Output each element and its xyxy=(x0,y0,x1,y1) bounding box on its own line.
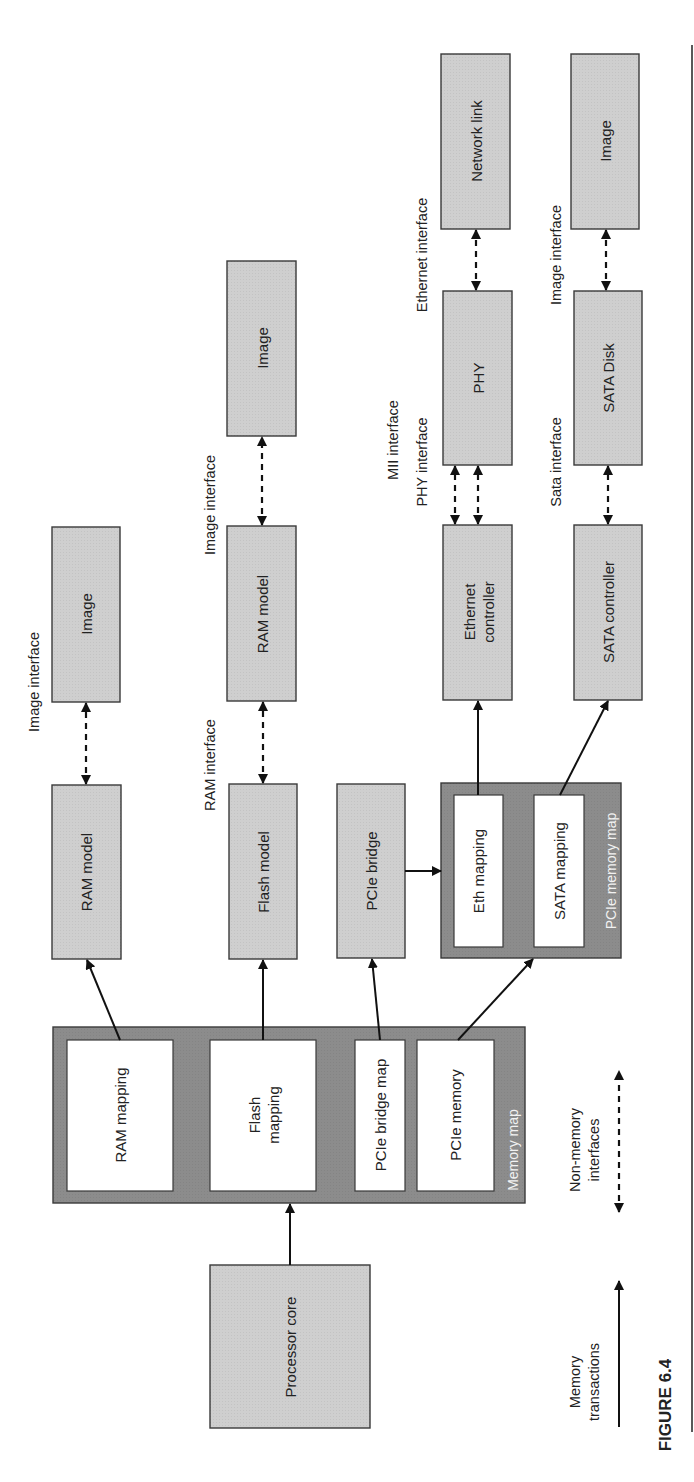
pcie-memory-map-title: PCIe memory map xyxy=(603,812,619,929)
ethernet-interface-label: Ethernet interface xyxy=(414,198,430,312)
flash-model-label: Flash model xyxy=(255,831,272,913)
system-diagram: Processor core Memory map RAM mapping Fl… xyxy=(0,0,694,1482)
ethernet-controller-label-2: controller xyxy=(480,581,497,643)
figure-label: FIGURE 6.4 xyxy=(656,1358,675,1451)
arrow-sata-mapping-to-sata-controller xyxy=(560,701,608,795)
flash-mapping-label-2: mapping xyxy=(265,1086,282,1144)
ethernet-controller-box-texture xyxy=(443,525,512,700)
eth-mapping-label: Eth mapping xyxy=(470,829,487,913)
image-1-label: Image xyxy=(78,593,95,635)
legend-nonmemory-label-2: interfaces xyxy=(586,1119,602,1182)
image-2-label: Image xyxy=(254,327,271,369)
phy-interface-label: PHY interface xyxy=(414,417,430,506)
ram-model-2-label: RAM model xyxy=(254,575,271,653)
image-interface-1-label: Image interface xyxy=(26,632,42,732)
image-3-label: Image xyxy=(597,120,614,162)
flash-mapping-box xyxy=(210,1040,316,1191)
ram-interface-label: RAM interface xyxy=(202,719,218,811)
sata-disk-label: SATA Disk xyxy=(600,343,617,413)
sata-controller-label: SATA controller xyxy=(600,561,617,663)
image-interface-3-label: Image interface xyxy=(548,205,564,305)
pcie-bridge-map-label: PCIe bridge map xyxy=(372,1059,389,1172)
ram-mapping-label: RAM mapping xyxy=(112,1067,129,1162)
sata-interface-label: Sata interface xyxy=(548,417,564,506)
ram-model-1-label: RAM model xyxy=(78,833,95,911)
image-interface-2-label: Image interface xyxy=(202,455,218,555)
mii-interface-label: MII interface xyxy=(385,400,401,480)
flash-mapping-label-1: Flash xyxy=(246,1097,263,1134)
sata-mapping-label: SATA mapping xyxy=(551,822,568,920)
legend-nonmemory-label-1: Non-memory xyxy=(567,1107,583,1192)
network-link-label: Network link xyxy=(468,100,485,182)
ethernet-controller-label-1: Ethernet xyxy=(461,583,478,641)
pcie-bridge-label: PCIe bridge xyxy=(363,831,380,910)
legend-memory-label-1: Memory xyxy=(567,1355,583,1408)
phy-label: PHY xyxy=(470,363,487,394)
legend-memory-label-2: transactions xyxy=(586,1343,602,1421)
processor-core-label: Processor core xyxy=(282,1297,299,1398)
pcie-memory-label: PCIe memory xyxy=(447,1069,464,1161)
memory-map-title: Memory map xyxy=(505,1109,521,1191)
